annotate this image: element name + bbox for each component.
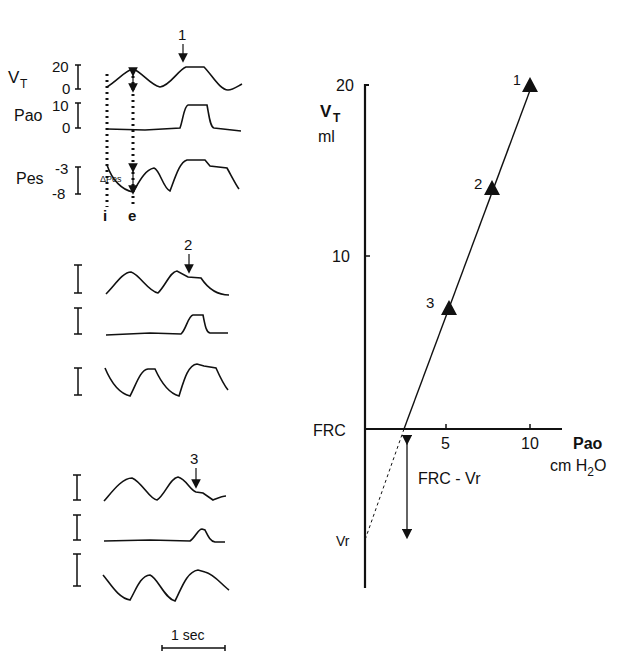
- scale-bar: [73, 515, 81, 540]
- pes-label: Pes: [16, 170, 44, 187]
- time-scale-label: 1 sec: [171, 627, 204, 643]
- frc-label: FRC: [313, 422, 346, 439]
- y-axis-title-sub: T: [333, 111, 341, 125]
- regression-line: [404, 85, 532, 429]
- time-scale-bar: [162, 645, 225, 651]
- pao-label: Pao: [14, 107, 43, 124]
- extrapolated-line: [365, 429, 404, 540]
- figure: V T 20 0 Pao 10 0 Pes -3 -8 ΔPes i e 1: [0, 0, 639, 661]
- data-point-2: [484, 180, 500, 195]
- occlusion-label-1: 1: [178, 26, 186, 43]
- vt-scale-bottom: 0: [62, 80, 70, 97]
- data-point-1: [522, 77, 538, 92]
- pao-trace-3: [104, 529, 225, 542]
- x-tick-label-10: 10: [521, 435, 539, 452]
- trace-panel-1: V T 20 0 Pao 10 0 Pes -3 -8 ΔPes i e 1: [8, 26, 242, 224]
- pes-trace-2: [105, 364, 228, 396]
- pao-trace-2: [106, 315, 228, 335]
- pao-scale-bottom: 0: [62, 119, 70, 136]
- scale-bar: [74, 265, 82, 293]
- vt-trace-1: [107, 67, 242, 90]
- trace-panel-3: 3 1 sec: [73, 450, 229, 651]
- scale-bar: [73, 554, 81, 586]
- pao-scale-top: 10: [52, 97, 69, 114]
- data-point-3: [441, 300, 457, 315]
- y-axis-units: ml: [318, 128, 335, 145]
- occlusion-label-3: 3: [190, 450, 198, 467]
- vr-label: Vr: [336, 533, 350, 549]
- y-axis: [365, 85, 369, 588]
- pao-trace-1: [107, 105, 241, 131]
- pes-scale-bar: [75, 167, 81, 194]
- vt-scale-top: 20: [52, 58, 69, 75]
- pes-trace-3: [103, 570, 229, 601]
- x-axis-units: cm H2O: [550, 457, 606, 479]
- x-axis-title: Pao: [573, 435, 603, 452]
- pes-trace-1: [107, 160, 239, 192]
- vt-scale-bar: [75, 65, 81, 89]
- occlusion-label-2: 2: [184, 236, 192, 253]
- vt-label: V: [8, 68, 20, 87]
- vt-subscript: T: [20, 77, 28, 91]
- point-label-2: 2: [474, 175, 482, 192]
- y-tick-label-20: 20: [336, 77, 354, 94]
- vt-trace-2: [106, 271, 229, 295]
- vt-trace-3: [104, 477, 226, 501]
- trace-panel-2: 2: [74, 236, 229, 396]
- pes-scale-top: -3: [55, 160, 68, 177]
- marker-i-label: i: [103, 207, 107, 224]
- frc-vr-label: FRC - Vr: [418, 470, 481, 487]
- marker-e-label: e: [128, 207, 136, 224]
- pao-scale-bar: [75, 103, 81, 128]
- point-label-3: 3: [426, 294, 434, 311]
- y-tick-label-10: 10: [332, 248, 350, 265]
- point-label-1: 1: [513, 72, 521, 88]
- x-tick-label-5: 5: [441, 435, 450, 452]
- scale-bar: [73, 475, 81, 500]
- y-axis-title: V: [320, 102, 332, 121]
- pes-scale-bottom: -8: [52, 185, 65, 202]
- pressure-volume-chart: 20 10 V T ml 5 10 FRC Pao cm H2O Vr FRC …: [313, 72, 606, 588]
- scale-bar: [74, 368, 82, 395]
- scale-bar: [74, 308, 82, 334]
- delta-pes-label: ΔPes: [100, 174, 122, 184]
